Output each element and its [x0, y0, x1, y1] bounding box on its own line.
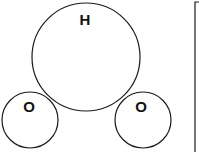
- bracket-line: [195, 2, 199, 152]
- atom-label-o-left: O: [23, 98, 35, 115]
- atom-label-o-right: O: [135, 98, 147, 115]
- molecule-diagram: H O O: [0, 0, 199, 152]
- atom-label-h: H: [80, 11, 91, 28]
